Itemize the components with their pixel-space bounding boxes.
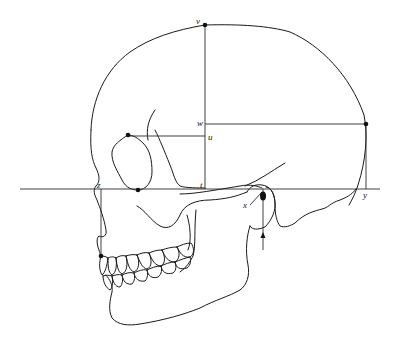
temporal-line (147, 110, 155, 140)
arrow-up-icon (261, 232, 266, 238)
label-z: z (97, 181, 101, 190)
temporal-squama-curve (245, 163, 285, 186)
prosthion-point (99, 254, 104, 259)
frontal-nasal-profile (91, 130, 106, 256)
label-t: t (200, 181, 203, 190)
occipital-base-outline (266, 187, 356, 227)
zygomatic-process (155, 130, 205, 188)
label-v: v (196, 17, 200, 26)
skull-diagram (0, 0, 400, 343)
label-w: w (197, 119, 203, 128)
label-x: x (243, 201, 247, 210)
label-y: y (363, 191, 367, 200)
x-pointer-line (250, 192, 262, 205)
zygomatic-arch-lower (137, 192, 247, 228)
mandible-ramus (106, 226, 250, 325)
orbit-top-point (126, 133, 131, 138)
zygomatic-arch (180, 185, 262, 194)
orbit-bottom-point (136, 188, 141, 193)
maxilla-posterior (187, 215, 190, 250)
vertex-point (203, 23, 208, 28)
cranial-vault-outline (91, 25, 366, 205)
porion-point (260, 192, 266, 201)
mandibular-condyle (247, 185, 275, 229)
orbit-outline (112, 135, 152, 190)
opisthocranion-point (364, 122, 369, 127)
label-u: u (208, 133, 213, 142)
